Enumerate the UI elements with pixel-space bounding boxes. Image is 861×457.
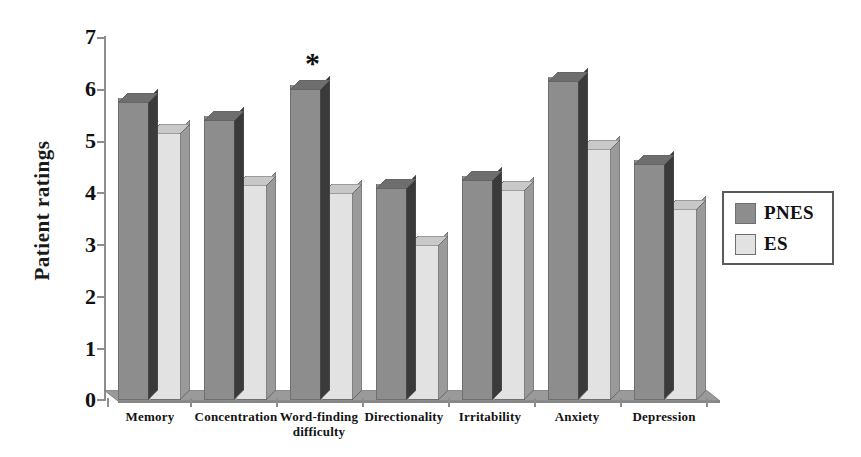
x-tick-2 — [276, 398, 278, 407]
legend-swatch-pnes — [735, 203, 756, 224]
bar-top-face — [150, 120, 190, 130]
bar-directionality-pnes — [376, 185, 406, 400]
bar-top-face — [494, 177, 534, 187]
x-category-label-line1: Anxiety — [532, 410, 622, 425]
bar-side-face — [610, 136, 620, 400]
bar-front-face — [322, 189, 353, 400]
bar-front-face — [634, 160, 665, 400]
bar-front-face — [150, 129, 181, 400]
y-tick-label-2: 2 — [68, 286, 96, 308]
bar-directionality-es — [408, 242, 438, 400]
x-category-label-anxiety: Anxiety — [532, 410, 622, 425]
bar-side-face — [696, 196, 706, 400]
y-tick-label-1: 1 — [68, 338, 96, 360]
y-tick-1 — [97, 348, 105, 350]
bar-side-face — [234, 107, 244, 400]
x-category-label-irritability: Irritability — [444, 410, 536, 425]
bar-side-face — [266, 172, 276, 400]
bar-concentration-pnes — [204, 117, 234, 400]
x-tick-3 — [362, 398, 364, 407]
x-tick-0 — [107, 398, 109, 407]
chart-legend: PNES ES — [722, 191, 834, 265]
bar-top-face — [408, 232, 448, 242]
bar-front-face — [548, 77, 579, 400]
bar-anxiety-pnes — [548, 78, 578, 400]
x-category-label-line1: Word-finding — [272, 410, 366, 425]
bar-side-face — [438, 232, 448, 400]
x-category-label-memory: Memory — [104, 410, 196, 425]
x-category-label-line1: Memory — [104, 410, 196, 425]
y-tick-6 — [97, 89, 105, 91]
legend-label-es: ES — [764, 233, 788, 255]
x-category-label-line1: Irritability — [444, 410, 536, 425]
y-tick-label-3: 3 — [68, 234, 96, 256]
x-tick-6 — [620, 398, 622, 407]
x-category-label-word-finding-difficulty: Word-finding difficulty — [272, 410, 366, 440]
bar-front-face — [376, 184, 407, 400]
y-tick-3 — [97, 244, 105, 246]
bar-memory-es — [150, 130, 180, 400]
bar-side-face — [352, 180, 362, 400]
bar-irritability-es — [494, 187, 524, 400]
bar-anxiety-es — [580, 146, 610, 400]
bar-memory-pnes — [118, 99, 148, 400]
bar-top-face — [376, 175, 416, 185]
bar-top-face — [236, 172, 276, 182]
bar-depression-pnes — [634, 161, 664, 400]
bar-side-face — [664, 151, 674, 400]
bar-side-face — [148, 89, 158, 400]
bar-front-face — [290, 85, 321, 400]
bar-top-face — [580, 136, 620, 146]
bar-front-face — [462, 176, 493, 400]
significance-asterisk: * — [305, 48, 320, 78]
x-category-label-line1: Concentration — [186, 410, 286, 425]
bar-side-face — [578, 68, 588, 400]
bar-top-face — [322, 180, 362, 190]
y-tick-7 — [97, 37, 105, 39]
x-tick-1 — [190, 398, 192, 407]
bar-front-face — [580, 145, 611, 400]
bar-depression-es — [666, 206, 696, 400]
y-tick-2 — [97, 296, 105, 298]
bar-top-face — [462, 167, 502, 177]
y-tick-label-0: 0 — [68, 389, 96, 411]
y-tick-4 — [97, 192, 105, 194]
x-category-label-line2: difficulty — [272, 425, 366, 440]
legend-entry-es: ES — [735, 233, 788, 255]
legend-label-pnes: PNES — [764, 202, 814, 224]
bar-top-face — [204, 107, 244, 117]
bar-irritability-pnes — [462, 177, 492, 400]
x-tick-4 — [448, 398, 450, 407]
bar-chart: Patient ratings 7 6 5 4 3 2 1 0 * Memory… — [0, 0, 861, 457]
x-tick-5 — [534, 398, 536, 407]
y-axis-title: Patient ratings — [30, 91, 55, 331]
y-tick-label-4: 4 — [68, 182, 96, 204]
y-tick-label-7: 7 — [68, 26, 96, 48]
bar-word-finding-difficulty-pnes — [290, 86, 320, 400]
x-category-label-concentration: Concentration — [186, 410, 286, 425]
legend-swatch-es — [735, 234, 756, 255]
x-category-label-line1: Directionality — [356, 410, 452, 425]
bar-concentration-es — [236, 182, 266, 400]
chart-floor — [104, 390, 720, 403]
bar-side-face — [524, 177, 534, 400]
y-tick-label-6: 6 — [68, 78, 96, 100]
legend-entry-pnes: PNES — [735, 202, 814, 224]
x-category-label-directionality: Directionality — [356, 410, 452, 425]
bar-side-face — [492, 167, 502, 400]
bar-front-face — [118, 98, 149, 400]
y-tick-5 — [97, 141, 105, 143]
bar-top-face — [118, 89, 158, 99]
bar-front-face — [408, 241, 439, 400]
bar-side-face — [180, 120, 190, 400]
bar-front-face — [236, 181, 267, 400]
y-tick-label-5: 5 — [68, 130, 96, 152]
bar-top-face — [634, 151, 674, 161]
bar-front-face — [204, 116, 235, 400]
bar-top-face — [666, 196, 706, 206]
bar-front-face — [494, 186, 525, 400]
x-category-label-depression: Depression — [616, 410, 712, 425]
x-tick-7 — [706, 398, 708, 407]
bar-side-face — [320, 76, 330, 400]
x-category-label-line1: Depression — [616, 410, 712, 425]
